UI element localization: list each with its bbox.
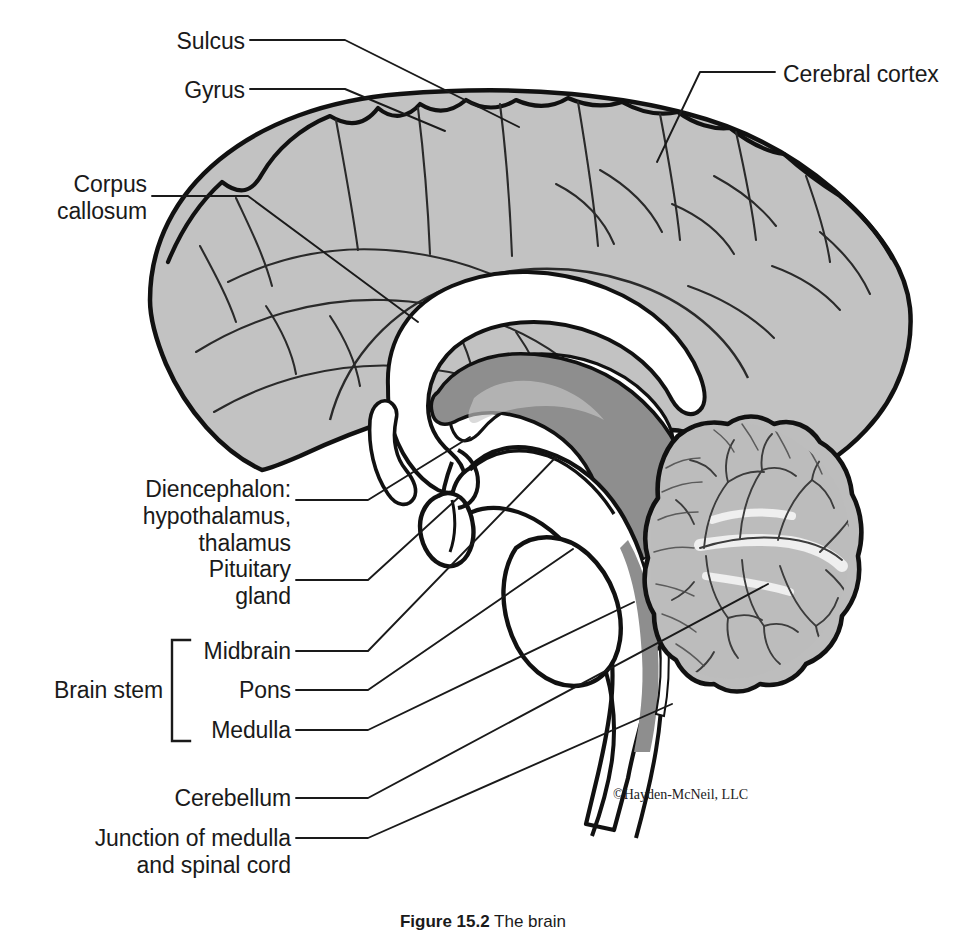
- label-pituitary-gland: Pituitary gland: [40, 556, 291, 610]
- label-medulla: Medulla: [40, 717, 291, 744]
- label-corpus-callosum: Corpus callosum: [0, 171, 147, 225]
- figure-caption-text: The brain: [490, 912, 566, 931]
- cerebellum-group: [645, 417, 862, 692]
- label-cerebral-cortex: Cerebral cortex: [783, 61, 971, 88]
- label-cerebellum: Cerebellum: [40, 785, 291, 812]
- label-brain-stem: Brain stem: [0, 677, 163, 704]
- label-midbrain: Midbrain: [40, 638, 291, 665]
- label-sulcus: Sulcus: [20, 28, 245, 55]
- figure-caption: Figure 15.2 The brain: [381, 892, 566, 934]
- label-junction-medulla-spinal-cord: Junction of medulla and spinal cord: [20, 825, 291, 879]
- figure-caption-number: Figure 15.2: [400, 912, 490, 931]
- label-diencephalon: Diencephalon: hypothalamus, thalamus: [40, 476, 291, 557]
- copyright-notice: ©Hayden-McNeil, LLC: [613, 787, 748, 803]
- label-gyrus: Gyrus: [20, 77, 245, 104]
